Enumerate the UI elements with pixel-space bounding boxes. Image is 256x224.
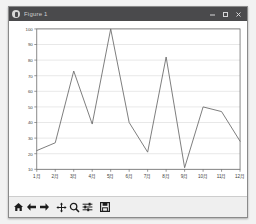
save-icon[interactable] <box>99 201 110 214</box>
zoom-icon[interactable] <box>69 201 80 214</box>
line-chart: 102030405060708090100 1月2月3月4月5月6月7月8月9月… <box>9 21 247 196</box>
figure-window: Figure 1 102030405060708090100 1月2月3月4月5… <box>8 6 248 218</box>
svg-text:80: 80 <box>28 58 33 63</box>
svg-text:100: 100 <box>26 27 34 32</box>
close-button[interactable] <box>232 8 245 20</box>
svg-text:70: 70 <box>28 74 33 79</box>
maximize-button[interactable] <box>219 8 232 20</box>
forward-arrow-icon[interactable] <box>39 201 50 214</box>
svg-text:60: 60 <box>28 89 33 94</box>
svg-text:10: 10 <box>28 167 33 172</box>
figure-canvas[interactable]: 102030405060708090100 1月2月3月4月5月6月7月8月9月… <box>9 21 247 196</box>
svg-text:20: 20 <box>28 152 33 157</box>
svg-text:30: 30 <box>28 136 33 141</box>
window-title: Figure 1 <box>24 7 206 21</box>
svg-text:90: 90 <box>28 42 33 47</box>
matplotlib-figure-icon <box>12 10 20 18</box>
pan-icon[interactable] <box>56 201 67 214</box>
minimize-button[interactable] <box>206 8 219 20</box>
back-arrow-icon[interactable] <box>26 201 37 214</box>
navigation-toolbar <box>9 196 247 217</box>
configure-subplots-icon[interactable] <box>82 201 93 214</box>
svg-text:40: 40 <box>28 120 33 125</box>
svg-text:50: 50 <box>28 105 33 110</box>
home-icon[interactable] <box>13 201 24 214</box>
title-bar[interactable]: Figure 1 <box>9 7 247 21</box>
chart-background <box>9 21 247 196</box>
